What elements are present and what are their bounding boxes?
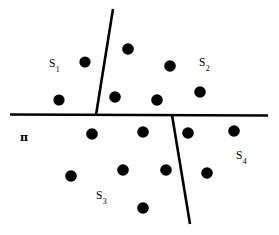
region-label-base: S	[236, 149, 242, 161]
region-label-subscript: 4	[243, 157, 247, 166]
plane-label-pi: π	[20, 132, 28, 143]
region-label-s1: S1	[49, 58, 59, 72]
region-label-s4: S4	[236, 150, 246, 164]
data-point	[160, 164, 172, 176]
data-point	[122, 43, 134, 55]
data-point	[164, 60, 176, 72]
data-point	[53, 94, 64, 105]
data-point	[228, 125, 240, 137]
data-point	[194, 86, 206, 98]
region-label-s3: S3	[96, 190, 106, 204]
data-point	[151, 94, 163, 106]
region-label-base: S	[96, 189, 102, 201]
data-point	[79, 56, 90, 67]
region-label-subscript: 3	[103, 197, 107, 206]
data-point	[182, 127, 194, 139]
diagram-canvas	[0, 0, 279, 235]
region-label-s2: S2	[199, 57, 209, 71]
divider-lines-group	[10, 9, 268, 224]
data-points-group	[53, 43, 239, 214]
data-point	[65, 170, 77, 182]
horizontal-divider	[10, 115, 268, 116]
region-label-subscript: 2	[206, 64, 210, 73]
data-point	[117, 164, 129, 176]
data-point	[137, 126, 149, 138]
data-point	[137, 202, 149, 214]
data-point	[201, 167, 213, 179]
data-point	[109, 91, 121, 103]
partition-diagram: πS1S2S3S4	[0, 0, 279, 235]
region-label-base: S	[49, 57, 55, 69]
region-label-base: S	[199, 56, 205, 68]
region-label-subscript: 1	[56, 65, 60, 74]
data-point	[86, 128, 98, 140]
